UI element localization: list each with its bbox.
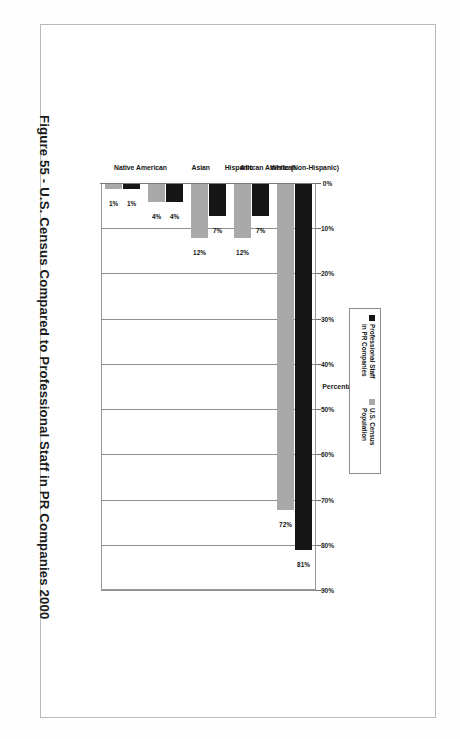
legend-label: U.S. Census Population xyxy=(361,408,376,445)
axis-tick-label: 60% xyxy=(313,450,343,459)
bar-census xyxy=(105,184,122,189)
chart-legend: Professional Staff in PR CompaniesU.S. C… xyxy=(349,308,381,474)
bar-value-label: 81% xyxy=(291,560,317,569)
axis-tick-label: 50% xyxy=(313,405,343,414)
category-label: Native American xyxy=(78,163,168,173)
axis-tick-label: 0% xyxy=(313,179,343,188)
legend-item: U.S. Census Population xyxy=(352,399,376,445)
legend-label: Professional Staff in PR Companies xyxy=(361,324,376,378)
bar-value-label: 12% xyxy=(230,248,256,257)
bar-census xyxy=(148,184,165,202)
bar-value-label: 1% xyxy=(101,198,127,207)
bar-staff xyxy=(166,184,183,202)
chart-region: 0%10%20%30%40%50%60%70%80%90% Percentage… xyxy=(99,112,385,590)
gridline xyxy=(101,545,316,546)
bar-staff xyxy=(123,184,140,189)
gridline xyxy=(101,590,316,591)
axis-tick-label: 80% xyxy=(313,540,343,549)
legend-item: Professional Staff in PR Companies xyxy=(352,315,376,378)
bar-census xyxy=(191,184,208,238)
bar-value-label: 72% xyxy=(273,519,299,528)
bar-census xyxy=(234,184,251,238)
filled-square-icon xyxy=(369,399,375,405)
scanned-page: Figure 55 - U.S. Census Compared to Prof… xyxy=(0,0,460,739)
bar-staff xyxy=(209,184,226,216)
axis-tick-label: 70% xyxy=(313,495,343,504)
axis-tick-label: 10% xyxy=(313,224,343,233)
bar-staff xyxy=(295,184,312,550)
bar-value-label: 4% xyxy=(144,212,170,221)
axis-tick-label: 90% xyxy=(313,586,343,595)
axis-tick-label: 20% xyxy=(313,269,343,278)
bar-census xyxy=(277,184,294,510)
bar-value-label: 12% xyxy=(187,248,213,257)
filled-square-icon xyxy=(369,315,375,321)
axis-tick-label: 30% xyxy=(313,314,343,323)
bar-staff xyxy=(252,184,269,216)
bar-value-label: 7% xyxy=(248,225,274,234)
figure-caption: Figure 55 - U.S. Census Compared to Prof… xyxy=(33,115,55,635)
axis-tick-label: 40% xyxy=(313,359,343,368)
bar-value-label: 7% xyxy=(205,225,231,234)
